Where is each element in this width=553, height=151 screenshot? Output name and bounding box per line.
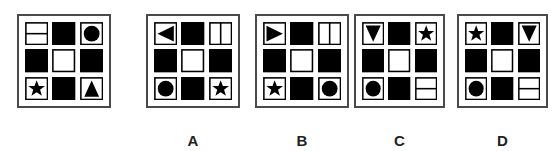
matrix-cell-r3c2 [491, 77, 513, 100]
matrix-cell-r1c3 [209, 22, 232, 45]
option-b-matrix[interactable] [255, 14, 349, 108]
option-c-wrap[interactable]: C [354, 14, 445, 108]
option-c-label: C [354, 132, 445, 149]
matrix-cell-r2c3 [318, 49, 341, 72]
matrix-cell-r2c1 [362, 49, 384, 72]
matrix-cell-r2c3 [80, 49, 103, 72]
option-d-matrix[interactable] [457, 14, 548, 108]
matrix-cell-r3c1 [263, 77, 286, 100]
matrix-cell-r2c2 [290, 49, 313, 72]
matrix-cell-r1c2 [491, 22, 513, 45]
matrix-cell-r3c3 [415, 77, 437, 100]
option-a-wrap[interactable]: A [146, 14, 240, 108]
matrix-cell-r2c1 [263, 49, 286, 72]
option-a-matrix[interactable] [146, 14, 240, 108]
matrix-cell-r1c3 [80, 22, 103, 45]
matrix-cell-r2c3 [209, 49, 232, 72]
matrix-cell-r1c2 [52, 22, 75, 45]
matrix-cell-r3c2 [52, 77, 75, 100]
matrix-cell-r2c3 [415, 49, 437, 72]
puzzle-figure: A B C D [0, 0, 553, 151]
matrix-cell-r1c2 [388, 22, 410, 45]
matrix-cell-r1c1 [465, 22, 487, 45]
matrix-cell-r3c3 [318, 77, 341, 100]
matrix-cell-r1c3 [415, 22, 437, 45]
matrix-cell-r1c3 [318, 22, 341, 45]
matrix-cell-r1c3 [518, 22, 540, 45]
matrix-cell-r3c3 [518, 77, 540, 100]
matrix-cell-r2c1 [25, 49, 48, 72]
matrix-cell-r1c1 [362, 22, 384, 45]
option-a-label: A [146, 132, 240, 149]
matrix-cell-r2c2 [388, 49, 410, 72]
matrix-cell-r1c1 [263, 22, 286, 45]
question-matrix-wrap [17, 14, 111, 108]
matrix-cell-r2c2 [181, 49, 204, 72]
matrix-cell-r3c3 [80, 77, 103, 100]
option-d-wrap[interactable]: D [457, 14, 548, 108]
matrix-cell-r3c2 [388, 77, 410, 100]
matrix-cell-r1c2 [290, 22, 313, 45]
matrix-cell-r3c1 [154, 77, 177, 100]
matrix-cell-r1c1 [154, 22, 177, 45]
option-c-matrix[interactable] [354, 14, 445, 108]
matrix-cell-r3c2 [181, 77, 204, 100]
matrix-cell-r2c1 [465, 49, 487, 72]
option-b-wrap[interactable]: B [255, 14, 349, 108]
matrix-cell-r3c1 [25, 77, 48, 100]
option-d-label: D [457, 132, 548, 149]
matrix-cell-r1c2 [181, 22, 204, 45]
matrix-cell-r2c3 [518, 49, 540, 72]
matrix-cell-r3c1 [362, 77, 384, 100]
matrix-cell-r3c1 [465, 77, 487, 100]
matrix-cell-r2c2 [52, 49, 75, 72]
matrix-cell-r2c2 [491, 49, 513, 72]
matrix-cell-r2c1 [154, 49, 177, 72]
matrix-cell-r1c1 [25, 22, 48, 45]
option-b-label: B [255, 132, 349, 149]
question-matrix [17, 14, 111, 108]
matrix-cell-r3c3 [209, 77, 232, 100]
matrix-cell-r3c2 [290, 77, 313, 100]
